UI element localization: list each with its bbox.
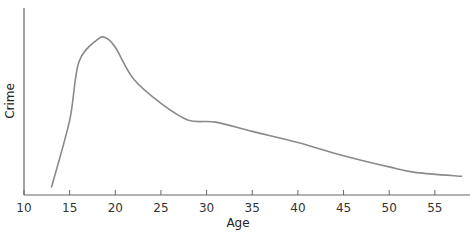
- y-axis-label: Crime: [3, 83, 17, 119]
- crime-curve: [51, 37, 462, 188]
- x-axis-label: Age: [226, 216, 249, 230]
- x-ticks: 10152025303540455055: [16, 190, 442, 215]
- chart-canvas: 10152025303540455055 Age Crime: [0, 0, 476, 241]
- x-tick-label: 10: [16, 201, 31, 215]
- x-tick-label: 40: [290, 201, 305, 215]
- x-tick-label: 35: [245, 201, 260, 215]
- x-tick-label: 25: [153, 201, 168, 215]
- x-tick-label: 20: [108, 201, 123, 215]
- x-tick-label: 45: [336, 201, 351, 215]
- age-crime-chart: 10152025303540455055 Age Crime: [0, 0, 476, 241]
- x-tick-label: 30: [199, 201, 214, 215]
- x-tick-label: 55: [427, 201, 442, 215]
- x-tick-label: 50: [382, 201, 397, 215]
- x-tick-label: 15: [62, 201, 77, 215]
